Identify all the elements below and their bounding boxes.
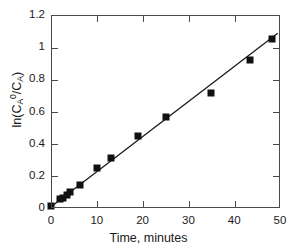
x-tick-label: 10	[90, 215, 103, 227]
y-axis-title-prefix: ln(C	[10, 105, 24, 128]
y-axis-title-suffix: )	[10, 72, 24, 76]
figure-scatter-plot: 01020304050 00.20.40.60.811.2 Time, minu…	[0, 0, 297, 252]
x-tick-label: 50	[274, 215, 287, 227]
x-tick-top	[189, 16, 190, 22]
y-tick-label: 1.2	[3, 9, 45, 21]
y-tick-left	[52, 112, 58, 113]
x-tick-bottom	[235, 201, 236, 207]
y-tick-label: 0.2	[3, 170, 45, 182]
y-tick-right	[273, 144, 279, 145]
y-tick-left	[52, 144, 58, 145]
y-tick-right	[273, 48, 279, 49]
x-tick-label: 40	[228, 215, 241, 227]
y-tick-right	[273, 112, 279, 113]
x-axis-title: Time, minutes	[0, 232, 297, 245]
y-tick-left	[52, 176, 58, 177]
y-axis-title-subscript-1: A	[15, 99, 25, 105]
x-tick-bottom	[189, 201, 190, 207]
plot-frame	[51, 15, 280, 208]
y-tick-right	[273, 176, 279, 177]
y-axis-title: ln(CA0/CA)	[9, 40, 24, 160]
y-axis-title-middle: /C	[10, 82, 24, 95]
y-tick-right	[273, 80, 279, 81]
x-tick-label: 20	[136, 215, 149, 227]
x-tick-label: 30	[182, 215, 195, 227]
y-axis-title-subscript-2: A	[15, 76, 25, 82]
y-axis-title-superscript-1: 0	[8, 94, 18, 99]
y-tick-left	[52, 48, 58, 49]
x-tick-bottom	[97, 201, 98, 207]
x-tick-top	[97, 16, 98, 22]
x-tick-top	[235, 16, 236, 22]
x-tick-label: 0	[48, 215, 54, 227]
x-tick-top	[143, 16, 144, 22]
y-tick-left	[52, 80, 58, 81]
y-tick-label: 0	[3, 202, 45, 214]
x-tick-bottom	[143, 201, 144, 207]
